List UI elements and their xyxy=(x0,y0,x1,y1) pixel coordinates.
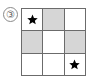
cell-r3c2[interactable] xyxy=(43,54,64,76)
star-icon xyxy=(69,59,80,70)
cell-r2c1[interactable] xyxy=(22,31,43,53)
item-number-badge: ③ xyxy=(3,7,18,22)
puzzle-figure: ③ xyxy=(0,0,92,81)
star-icon xyxy=(27,14,38,25)
cell-r1c3[interactable] xyxy=(65,9,86,31)
cell-r3c3[interactable] xyxy=(65,54,86,76)
item-number-label: ③ xyxy=(6,10,15,20)
puzzle-grid xyxy=(21,8,86,76)
cell-r3c1[interactable] xyxy=(22,54,43,76)
cell-r2c2[interactable] xyxy=(43,31,64,53)
cell-r2c3[interactable] xyxy=(65,31,86,53)
cell-r1c1[interactable] xyxy=(22,9,43,31)
cell-r1c2[interactable] xyxy=(43,9,64,31)
